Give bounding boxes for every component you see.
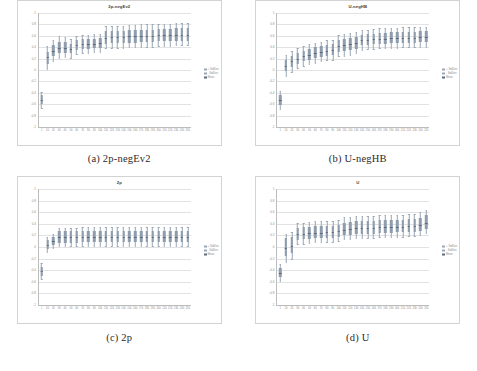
y-tick-label: 0.4 bbox=[32, 46, 36, 49]
legend-swatch bbox=[204, 245, 207, 247]
legend-swatch bbox=[442, 76, 445, 78]
whisker-cap-lower bbox=[94, 246, 95, 247]
whisker-cap-lower bbox=[402, 47, 403, 48]
box-plot bbox=[169, 13, 171, 127]
median-line bbox=[105, 237, 107, 238]
x-tick-label: 100 bbox=[336, 129, 340, 132]
whisker-cap-lower bbox=[123, 246, 124, 247]
whisker-cap-upper bbox=[94, 227, 95, 228]
y-tick-label: -0.6 bbox=[269, 280, 274, 283]
median-line bbox=[291, 246, 293, 247]
whisker-cap-lower bbox=[123, 48, 124, 49]
whisker-cap-lower bbox=[279, 281, 280, 282]
whisker-cap-upper bbox=[373, 216, 374, 217]
x-tick-label: 40 bbox=[302, 307, 305, 310]
box-plot bbox=[46, 13, 48, 127]
whisker-cap-lower bbox=[105, 246, 106, 247]
whisker-cap-upper bbox=[123, 26, 124, 27]
whisker-cap-upper bbox=[47, 237, 48, 238]
median-line bbox=[355, 43, 357, 44]
legend-item: Mean bbox=[204, 76, 219, 79]
x-tick-label: 50 bbox=[308, 129, 311, 132]
y-tick-label: -0.2 bbox=[31, 80, 36, 83]
whisker-cap-lower bbox=[396, 48, 397, 49]
whisker-cap-upper bbox=[152, 24, 153, 25]
whisker-cap-lower bbox=[332, 60, 333, 61]
x-tick-label: 1 bbox=[279, 307, 280, 310]
box-plot bbox=[390, 13, 392, 127]
median-line bbox=[425, 37, 427, 38]
y-tick-label: -0.2 bbox=[269, 80, 274, 83]
box-plot bbox=[175, 13, 177, 127]
median-line bbox=[419, 37, 421, 38]
y-tick-label: 1 bbox=[273, 188, 275, 191]
panel-d: U 10.80.60.40.20-0.2-0.4-0.6-0.8-1 11020… bbox=[249, 176, 467, 343]
x-tick-label: 20 bbox=[290, 307, 293, 310]
median-line bbox=[302, 56, 304, 57]
chart-c: 2p 10.80.60.40.20-0.2-0.4-0.6-0.8-1 1102… bbox=[17, 176, 222, 324]
box-plot bbox=[367, 13, 369, 127]
whisker-cap-lower bbox=[315, 242, 316, 243]
median-line bbox=[128, 36, 130, 37]
caption-d: (d) U bbox=[346, 332, 369, 343]
box-plot bbox=[81, 189, 83, 305]
whisker-cap-upper bbox=[99, 34, 100, 35]
whisker-cap-upper bbox=[303, 46, 304, 47]
whisker-cap-lower bbox=[88, 246, 89, 247]
x-tick-label: 250 bbox=[424, 307, 428, 310]
x-tick-label: 1 bbox=[41, 307, 42, 310]
median-line bbox=[122, 237, 124, 238]
legend-swatch bbox=[442, 68, 445, 70]
whisker-cap-upper bbox=[414, 214, 415, 215]
whisker-cap-lower bbox=[391, 48, 392, 49]
x-tick-label: 80 bbox=[87, 129, 90, 132]
median-line bbox=[116, 37, 118, 38]
whisker-cap-upper bbox=[58, 228, 59, 229]
box-plot bbox=[134, 13, 136, 127]
whisker-cap-upper bbox=[175, 227, 176, 228]
y-tick-label: -0.6 bbox=[269, 103, 274, 106]
median-line bbox=[378, 227, 380, 228]
box-plot bbox=[355, 13, 357, 127]
median-line bbox=[378, 39, 380, 40]
median-line bbox=[169, 35, 171, 36]
whisker-cap-lower bbox=[117, 246, 118, 247]
whisker-cap-upper bbox=[332, 221, 333, 222]
box-plot bbox=[314, 13, 316, 127]
whisker-cap-upper bbox=[426, 27, 427, 28]
whisker-cap-upper bbox=[408, 214, 409, 215]
whisker-cap-lower bbox=[64, 57, 65, 58]
median-line bbox=[93, 44, 95, 45]
x-tick-label: 180 bbox=[383, 129, 387, 132]
whisker-cap-upper bbox=[76, 36, 77, 37]
x-tick-label: 70 bbox=[81, 129, 84, 132]
y-tick-label: 0.8 bbox=[270, 23, 274, 26]
box-plot bbox=[302, 13, 304, 127]
x-tick-labels-a: 1102030405060708090100110120130140150160… bbox=[39, 127, 191, 139]
x-tick-label: 90 bbox=[331, 307, 334, 310]
whisker-cap-lower bbox=[373, 238, 374, 239]
box-plot bbox=[122, 189, 124, 305]
median-line bbox=[349, 229, 351, 230]
legend-item: Mean bbox=[442, 76, 457, 79]
legend-c: + StdDev- StdDevMean bbox=[204, 245, 219, 256]
box-plot bbox=[343, 189, 345, 305]
x-tick-label: 180 bbox=[145, 129, 149, 132]
y-tick-label: -0.2 bbox=[269, 257, 274, 260]
whisker-cap-lower bbox=[152, 246, 153, 247]
legend-b: + StdDev- StdDevMean bbox=[442, 68, 457, 79]
median-line bbox=[425, 223, 427, 224]
box-plot bbox=[372, 13, 374, 127]
y-tick-label: 1 bbox=[34, 12, 36, 15]
whisker-cap-upper bbox=[88, 227, 89, 228]
whisker-cap-upper bbox=[297, 223, 298, 224]
box-plot bbox=[419, 13, 421, 127]
figure-panel-grid: 2p-negEv2 10.80.60.40.20-0.2-0.4-0.6-0.8… bbox=[0, 0, 477, 371]
box-plot bbox=[70, 189, 72, 305]
chart-title-c: 2p bbox=[18, 180, 221, 186]
box-plot bbox=[332, 13, 334, 127]
whisker-cap-lower bbox=[134, 47, 135, 48]
box-plot bbox=[93, 13, 95, 127]
whisker-cap-upper bbox=[47, 46, 48, 47]
box-plot bbox=[163, 13, 165, 127]
